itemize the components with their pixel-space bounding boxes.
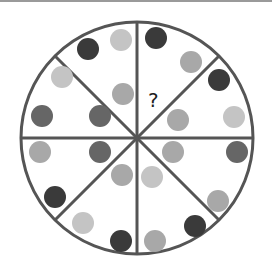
- sector-dividers: [21, 22, 253, 254]
- dot-darkmid: [226, 141, 248, 163]
- dot-light: [110, 29, 132, 51]
- dot-light: [141, 166, 163, 188]
- dot-midlight: [180, 51, 202, 73]
- dot-dark: [145, 27, 167, 49]
- dot-dark: [110, 230, 132, 252]
- missing-dot-question-mark: ?: [148, 88, 159, 112]
- dot-dark: [77, 38, 99, 60]
- dot-light: [72, 212, 94, 234]
- dot-dark: [208, 69, 230, 91]
- dot-light: [51, 66, 73, 88]
- dot-dark: [44, 186, 66, 208]
- dot-midlight: [29, 141, 51, 163]
- dot-dark: [184, 215, 206, 237]
- dot-light: [223, 106, 245, 128]
- dot-midlight: [111, 164, 133, 186]
- dot-midlight: [162, 141, 184, 163]
- dot-darkmid: [89, 141, 111, 163]
- dot-midlight: [144, 230, 166, 252]
- dot-darkmid: [89, 105, 111, 127]
- dot-midlight: [207, 190, 229, 212]
- circle-puzzle: ?: [0, 0, 272, 278]
- dot-midlight: [167, 109, 189, 131]
- dot-darkmid: [31, 105, 53, 127]
- dot-midlight: [112, 83, 134, 105]
